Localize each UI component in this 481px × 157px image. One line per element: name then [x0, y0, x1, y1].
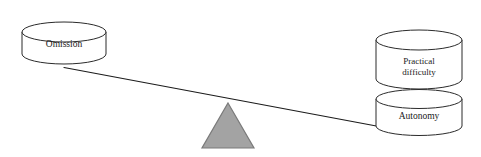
autonomy-cylinder-label: Autonomy — [399, 111, 440, 121]
fulcrum-triangle-shape — [202, 103, 254, 148]
practical-difficulty-cylinder-label-line-1: Practical — [403, 56, 435, 66]
omission-cylinder-label: Omission — [46, 39, 83, 49]
fulcrum-triangle — [202, 103, 254, 148]
balance-diagram: Omission Practical difficulty Autonomy — [0, 0, 481, 157]
practical-difficulty-cylinder-top — [376, 30, 462, 50]
practical-difficulty-cylinder-label-line-2: difficulty — [402, 67, 436, 77]
diagram-canvas: Omission Practical difficulty Autonomy — [0, 0, 481, 157]
cylinder-practical-difficulty: Practical difficulty — [376, 30, 462, 89]
cylinder-autonomy: Autonomy — [376, 90, 462, 136]
cylinder-omission: Omission — [22, 22, 106, 64]
autonomy-cylinder-top — [376, 90, 462, 109]
